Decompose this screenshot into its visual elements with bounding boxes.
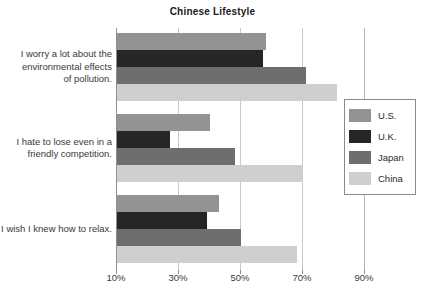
value-axis-tick-labels: 10%30%50%70%90% [0,272,425,292]
legend-item-japan[interactable]: Japan [349,147,411,168]
bar-us-1[interactable] [117,114,210,131]
category-axis-labels: I worry a lot about theenvironmental eff… [0,28,112,270]
bar-group [117,195,364,263]
x-tick-mark [240,270,241,274]
bar-chart: Chinese Lifestyle I worry a lot about th… [0,0,425,299]
category-label-line: environmental effects [0,61,112,74]
category-label-line: I wish I knew how to relax. [0,223,112,236]
bar-group [117,114,364,182]
legend-label: Japan [378,152,404,163]
category-label-2: I wish I knew how to relax. [0,223,112,236]
category-label-line: friendly competition. [0,148,112,161]
chart-legend: U.S.U.K.JapanChina [344,99,416,195]
bar-us-2[interactable] [117,195,219,212]
x-tick-mark [178,270,179,274]
legend-label: U.S. [378,110,396,121]
category-label-line: I worry a lot about the [0,48,112,61]
bar-japan-1[interactable] [117,148,235,165]
bar-group [117,33,364,101]
bar-china-1[interactable] [117,165,303,182]
category-label-1: I hate to lose even in afriendly competi… [0,136,112,161]
legend-swatch [349,172,371,185]
legend-item-china[interactable]: China [349,168,411,189]
legend-item-us[interactable]: U.S. [349,105,411,126]
category-label-line: of pollution. [0,73,112,86]
x-tick-mark [302,270,303,274]
legend-swatch [349,109,371,122]
plot-area [116,28,364,270]
bar-japan-0[interactable] [117,67,306,84]
legend-label: U.K. [378,131,396,142]
bar-uk-0[interactable] [117,50,263,67]
bar-china-0[interactable] [117,84,337,101]
legend-swatch [349,130,371,143]
x-tick-mark [364,270,365,274]
bar-us-0[interactable] [117,33,266,50]
legend-swatch [349,151,371,164]
chart-title: Chinese Lifestyle [0,6,425,17]
legend-item-uk[interactable]: U.K. [349,126,411,147]
bar-japan-2[interactable] [117,229,241,246]
category-label-0: I worry a lot about theenvironmental eff… [0,48,112,86]
legend-label: China [378,173,403,184]
bar-uk-1[interactable] [117,131,170,148]
category-label-line: I hate to lose even in a [0,136,112,149]
bar-uk-2[interactable] [117,212,207,229]
bar-china-2[interactable] [117,246,297,263]
x-tick-mark [116,270,117,274]
